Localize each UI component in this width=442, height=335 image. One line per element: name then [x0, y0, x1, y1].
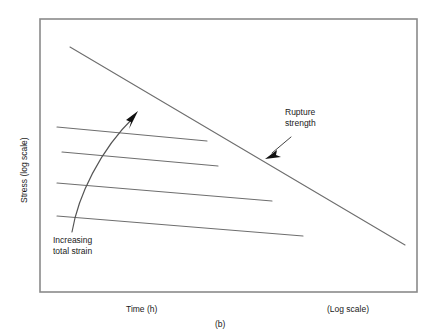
figure-caption: (b): [215, 319, 226, 329]
x-axis-scale-note: (Log scale): [327, 304, 369, 314]
iso-strain-line-2: [62, 152, 218, 166]
increasing-strain-arrow-shaft: [72, 117, 134, 232]
rupture-callout-leader: [272, 137, 291, 153]
rupture-strength-line: [70, 47, 405, 245]
rupture-strength-label-line1: Rupture: [285, 107, 316, 117]
rupture-strength-label-line2: strength: [285, 118, 316, 128]
iso-strain-line-4: [57, 216, 303, 236]
rupture-callout-arrow-head: [265, 150, 281, 159]
stress-rupture-diagram: Rupture strength Increasing total strain…: [0, 0, 442, 335]
figure-page: Rupture strength Increasing total strain…: [0, 0, 442, 335]
iso-strain-line-3: [57, 183, 272, 201]
x-axis-label: Time (h): [126, 304, 157, 314]
increasing-strain-label-line1: Increasing: [53, 235, 92, 245]
iso-strain-line-1: [57, 127, 207, 141]
y-axis-label: Stress (log scale): [19, 137, 29, 203]
increasing-strain-arrow-head: [126, 111, 138, 129]
increasing-strain-label-line2: total strain: [53, 246, 92, 256]
